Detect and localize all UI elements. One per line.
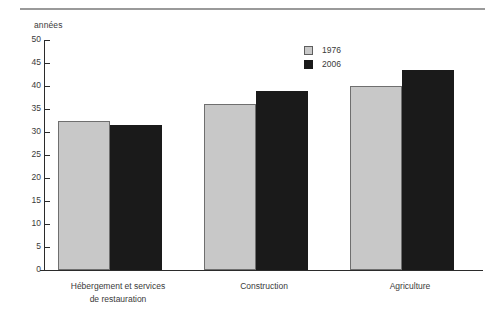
plot-area: 50454035302520151050 Hébergement et serv…	[0, 0, 499, 319]
chart-legend: 19762006	[304, 44, 341, 72]
x-category-label: Agriculture	[327, 280, 493, 293]
y-tick: 30	[18, 132, 52, 133]
y-tick-mark	[44, 86, 50, 87]
legend-item-2006: 2006	[304, 58, 341, 70]
y-tick: 20	[18, 178, 52, 179]
y-tick-mark	[44, 109, 50, 110]
legend-swatch-icon	[304, 46, 313, 55]
bar-2006-3	[402, 70, 454, 270]
y-tick-label: 20	[32, 172, 41, 182]
bar-1976-2	[204, 104, 256, 270]
y-tick: 40	[18, 86, 52, 87]
y-tick-label: 45	[32, 57, 41, 67]
y-tick-label: 40	[32, 80, 41, 90]
bar-chart-figure: années 50454035302520151050 Hébergement …	[0, 0, 499, 319]
bar-2006-1	[110, 125, 162, 270]
bar-2006-2	[256, 91, 308, 270]
y-tick: 10	[18, 224, 52, 225]
bar-1976-3	[350, 86, 402, 270]
y-tick-label: 35	[32, 103, 41, 113]
y-tick-label: 5	[36, 241, 41, 251]
y-tick: 25	[18, 155, 52, 156]
x-axis-line	[40, 270, 483, 271]
y-tick-label: 50	[32, 34, 41, 44]
y-tick-label: 10	[32, 218, 41, 228]
y-tick-mark	[44, 224, 50, 225]
y-tick-label: 15	[32, 195, 41, 205]
y-tick: 5	[18, 247, 52, 248]
bar-1976-1	[58, 121, 110, 271]
y-tick-mark	[44, 201, 50, 202]
y-tick-mark	[44, 63, 50, 64]
y-tick: 45	[18, 63, 52, 64]
y-tick: 0	[18, 270, 52, 271]
x-category-label: Construction	[181, 280, 347, 293]
y-tick-label: 0	[36, 264, 41, 274]
y-tick-mark	[44, 247, 50, 248]
y-tick-label: 30	[32, 126, 41, 136]
legend-label: 1976	[322, 45, 341, 55]
y-tick-mark	[44, 178, 50, 179]
y-tick: 15	[18, 201, 52, 202]
y-tick-mark	[44, 40, 50, 41]
y-tick-mark	[44, 155, 50, 156]
legend-label: 2006	[322, 59, 341, 69]
y-tick-mark	[44, 132, 50, 133]
y-tick: 35	[18, 109, 52, 110]
y-tick-mark	[44, 270, 50, 271]
y-tick: 50	[18, 40, 52, 41]
legend-item-1976: 1976	[304, 44, 341, 56]
x-category-label: Hébergement et services de restauration	[35, 280, 201, 306]
legend-swatch-icon	[304, 60, 313, 69]
y-tick-label: 25	[32, 149, 41, 159]
